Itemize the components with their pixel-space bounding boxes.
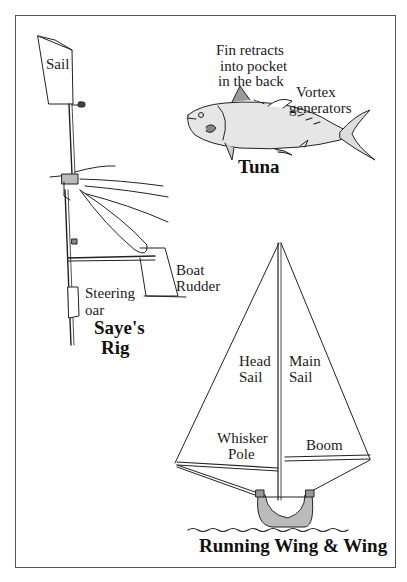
title-tuna: Tuna — [238, 157, 280, 177]
tuna-drawing — [187, 86, 375, 160]
label-whisker-pole-line1: Whisker — [217, 430, 268, 446]
label-head-sail-line2: Sail — [239, 369, 262, 385]
label-vortex-line2: generators — [289, 100, 351, 116]
label-sail: Sail — [46, 56, 69, 72]
label-boom: Boom — [306, 437, 343, 453]
label-vortex-line1: Vortex — [296, 84, 336, 100]
title-sayes-rig-line2: Rig — [101, 338, 130, 358]
label-steering-oar-line1: Steering — [85, 285, 135, 301]
label-head-sail-line1: Head — [239, 353, 271, 369]
label-steering-oar-line2: oar — [85, 302, 104, 318]
label-main-sail-line1: Main — [289, 353, 321, 369]
title-sayes-rig-line1: Saye's — [94, 318, 145, 338]
water-waves-icon — [188, 529, 348, 532]
label-whisker-pole-line2: Pole — [228, 446, 255, 462]
hull-icon — [258, 495, 313, 527]
label-main-sail-line2: Sail — [289, 369, 312, 385]
label-boat-rudder-line1: Boat — [176, 262, 204, 278]
label-fin-line1: Fin retracts — [216, 42, 284, 58]
label-boat-rudder-line2: Rudder — [176, 278, 220, 294]
label-fin-line2: into pocket — [220, 58, 287, 74]
label-fin-line3: in the back — [218, 73, 284, 89]
title-running-wing-and-wing: Running Wing & Wing — [199, 536, 387, 556]
